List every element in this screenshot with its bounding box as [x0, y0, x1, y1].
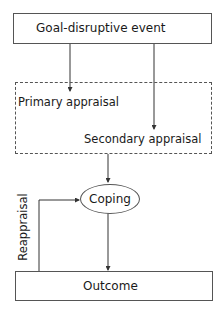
goal-disruptive-event-label: Goal-disruptive event	[36, 22, 166, 34]
outcome-label: Outcome	[83, 280, 138, 292]
connector-layer	[0, 0, 222, 314]
outcome-box: Outcome	[15, 271, 213, 301]
arrow-reappraisal-loop	[39, 200, 79, 272]
coping-label: Coping	[89, 193, 131, 205]
goal-disruptive-event-box: Goal-disruptive event	[13, 13, 212, 44]
primary-appraisal-label: Primary appraisal	[18, 97, 119, 109]
secondary-appraisal-label: Secondary appraisal	[84, 134, 201, 146]
reappraisal-label: Reappraisal	[18, 195, 30, 261]
coping-node: Coping	[80, 184, 140, 214]
